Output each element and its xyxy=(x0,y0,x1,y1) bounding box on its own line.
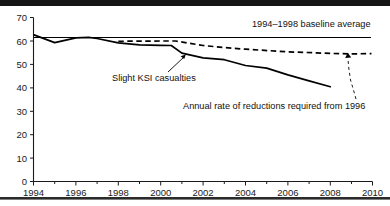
annual-rate-leader-line xyxy=(348,58,356,99)
x-tick-label-2000: 2000 xyxy=(150,187,171,197)
x-tick-label-1998: 1998 xyxy=(108,187,129,197)
annotation-baseline-average-label: 1994–1998 baseline average xyxy=(252,19,371,29)
x-tick-label-2004: 2004 xyxy=(235,187,256,197)
line-chart-svg: 70 60 50 40 30 20 10 0 xyxy=(0,6,390,197)
y-tick-label-60: 60 xyxy=(16,36,27,47)
series-annual-rate-of-reductions xyxy=(118,41,371,54)
y-tick-label-50: 50 xyxy=(16,59,27,70)
x-tick-label-1994: 1994 xyxy=(23,187,44,197)
chart-plot-container: 70 60 50 40 30 20 10 0 xyxy=(0,6,390,197)
y-tick-label-10: 10 xyxy=(16,153,27,164)
y-tick-label-20: 20 xyxy=(16,129,27,140)
bottom-rule-secondary-decoration xyxy=(0,199,390,200)
x-tick-label-2006: 2006 xyxy=(277,187,298,197)
slight-ksi-leader-arrow-icon xyxy=(181,55,186,60)
y-tick-label-70: 70 xyxy=(16,12,27,23)
y-axis-tick-labels: 70 60 50 40 30 20 10 0 xyxy=(16,12,27,187)
x-tick-label-1996: 1996 xyxy=(65,187,86,197)
x-axis-tick-labels: 1994 1996 1998 2000 2002 2004 2006 2008 … xyxy=(23,187,383,197)
x-tick-label-2002: 2002 xyxy=(193,187,214,197)
slight-ksi-leader-line xyxy=(168,57,185,73)
y-tick-label-0: 0 xyxy=(22,176,27,187)
x-tick-label-2010: 2010 xyxy=(362,187,383,197)
x-axis-ticks xyxy=(34,182,373,186)
y-tick-label-40: 40 xyxy=(16,82,27,93)
chart-figure: 70 60 50 40 30 20 10 0 xyxy=(0,0,390,206)
annotation-slight-ksi-label: Slight KSI casualties xyxy=(112,73,196,83)
y-tick-label-30: 30 xyxy=(16,106,27,117)
x-tick-label-2008: 2008 xyxy=(320,187,341,197)
annotation-annual-rate-label: Annual rate of reductions required from … xyxy=(183,101,365,111)
